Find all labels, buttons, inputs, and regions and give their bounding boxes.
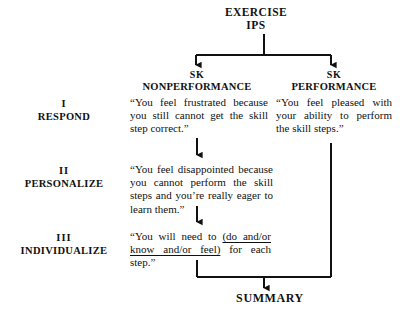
row-label-respond-text: RESPOND [0, 111, 128, 124]
cell-individualize-nonperformance: “You will need to (do and/or know and/or… [130, 230, 271, 270]
column-header-performance-sk: SK [272, 69, 396, 81]
diagram-title-line-2: IPS [196, 19, 316, 32]
row-label-individualize-numeral: III [0, 232, 128, 245]
column-header-nonperformance-sk: SK [126, 69, 268, 81]
column-header-performance-label: PERFORMANCE [272, 81, 396, 93]
column-header-nonperformance-label: NONPERFORMANCE [126, 81, 268, 93]
row-label-respond: I RESPOND [0, 98, 128, 123]
exercise-ips-flow-diagram: EXERCISE IPS SK NONPERFORMANCE SK PERFOR… [0, 0, 403, 321]
row-label-individualize-text: INDIVIDUALIZE [0, 245, 128, 258]
diagram-title: EXERCISE IPS [196, 6, 316, 31]
row-label-personalize-numeral: II [0, 165, 128, 178]
cell-individualize-prefix: “You will need to [130, 230, 222, 242]
cell-respond-nonperformance: “You feel frustrated because you still c… [130, 96, 268, 136]
row-label-individualize: III INDIVIDUALIZE [0, 232, 128, 257]
connector-lines-layer [0, 0, 403, 321]
cell-personalize-nonperformance: “You feel disappointed because you canno… [130, 163, 273, 216]
row-label-personalize: II PERSONALIZE [0, 165, 128, 190]
cell-respond-performance: “You feel pleased with your ability to p… [276, 96, 392, 136]
row-label-respond-numeral: I [0, 98, 128, 111]
diagram-title-line-1: EXERCISE [196, 6, 316, 19]
column-header-nonperformance: SK NONPERFORMANCE [126, 69, 268, 93]
row-label-personalize-text: PERSONALIZE [0, 178, 128, 191]
column-header-performance: SK PERFORMANCE [272, 69, 396, 93]
summary-label: SUMMARY [205, 291, 335, 306]
